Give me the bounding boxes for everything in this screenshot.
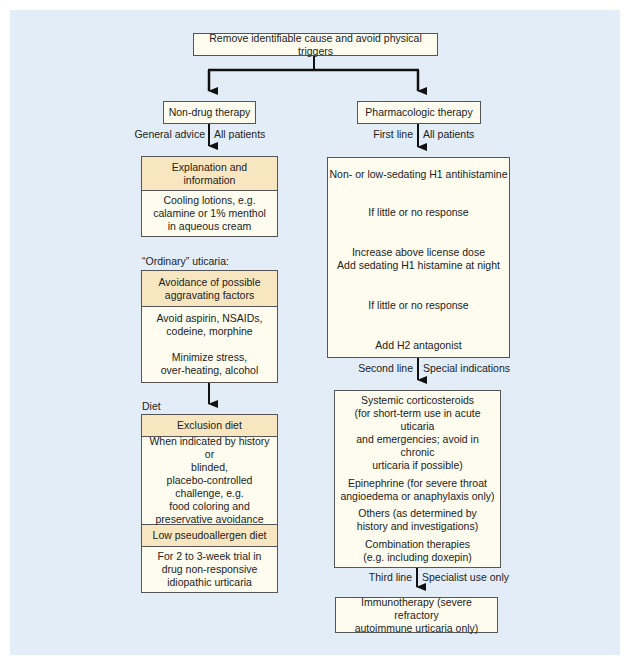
all-patients-label-left: All patients (214, 128, 265, 141)
ordinary-urticaria-label: “Ordinary” uticaria: (142, 255, 229, 268)
avoidance-box: Avoidance of possible aggravating factor… (141, 270, 278, 383)
exclusion-diet-header: Exclusion diet (142, 415, 277, 437)
pharmacologic-therapy-title: Pharmacologic therapy (365, 106, 472, 119)
second-line-box: Systemic corticosteroids (for short-term… (334, 390, 501, 568)
special-indications-label: Special indications (423, 362, 510, 375)
step-increase-dose: Increase above license dose (328, 246, 509, 259)
second-line-label: Second line (330, 362, 413, 375)
avoidance-body: Avoid aspirin, NSAIDs, codeine, morphine… (142, 307, 277, 382)
low-pseudoallergen-header: Low pseudoallergen diet (142, 525, 277, 547)
all-patients-label-right: All patients (423, 128, 474, 141)
remove-cause-text: Remove identifiable cause and avoid phys… (198, 32, 433, 58)
combination-therapies-text: Combination therapies (365, 538, 470, 551)
step-h2-antagonist: Add H2 antagonist (328, 339, 509, 352)
immunotherapy-box: Immunotherapy (severe refractory autoimm… (335, 597, 498, 633)
exclusion-diet-body: When indicated by history or blinded, pl… (142, 437, 277, 525)
epinephrine-text: Epinephrine (for severe throat (348, 477, 487, 490)
first-line-box: Non- or low-sedating H1 antihistamine If… (327, 157, 510, 358)
general-advice-label: General advice (120, 128, 205, 141)
pharmacologic-therapy-box: Pharmacologic therapy (357, 101, 481, 124)
step-h1-antihistamine: Non- or low-sedating H1 antihistamine (328, 168, 509, 181)
first-line-label: First line (330, 128, 413, 141)
step-no-response-1: If little or no response (328, 206, 509, 219)
explanation-box: Explanation and information Cooling loti… (141, 156, 278, 237)
diet-box: Exclusion diet When indicated by history… (141, 414, 278, 593)
low-pseudoallergen-body: For 2 to 3-week trial in drug non-respon… (142, 547, 277, 592)
remove-cause-box: Remove identifiable cause and avoid phys… (193, 33, 438, 56)
non-drug-therapy-title: Non-drug therapy (169, 106, 251, 119)
explanation-header: Explanation and information (142, 157, 277, 191)
third-line-label: Third line (330, 571, 412, 584)
specialist-use-label: Specialist use only (422, 571, 509, 584)
others-text: Others (as determined by (358, 507, 476, 520)
step-sedating-h1: Add sedating H1 histamine at night (328, 259, 509, 272)
explanation-body: Cooling lotions, e.g. calamine or 1% men… (142, 191, 277, 236)
corticosteroids-text: Systemic corticosteroids (361, 394, 474, 407)
avoidance-header: Avoidance of possible aggravating factor… (142, 271, 277, 307)
step-no-response-2: If little or no response (328, 299, 509, 312)
diet-label: Diet (142, 400, 161, 413)
connector-lines (0, 0, 630, 663)
non-drug-therapy-box: Non-drug therapy (163, 101, 256, 124)
